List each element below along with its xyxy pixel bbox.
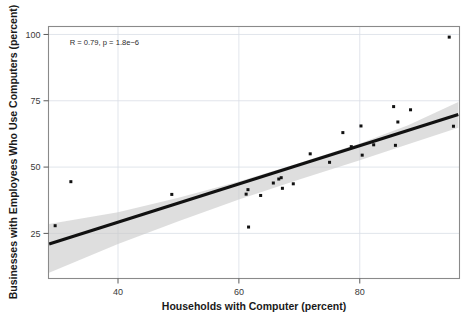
- y-tick-label: 25: [30, 229, 40, 239]
- data-point: [396, 120, 399, 123]
- data-point: [409, 108, 412, 111]
- data-point: [281, 187, 284, 190]
- x-tick-label: 60: [234, 287, 244, 297]
- data-point: [54, 224, 57, 227]
- data-point: [245, 193, 248, 196]
- data-point: [247, 226, 250, 229]
- scatter-plot-figure: 406080 255075100 R = 0.79, p = 1.8e−6 Ho…: [0, 0, 474, 331]
- y-tick-label: 75: [30, 96, 40, 106]
- data-point: [392, 105, 395, 108]
- data-point: [328, 161, 331, 164]
- data-point: [309, 152, 312, 155]
- data-point: [259, 194, 262, 197]
- data-point: [280, 176, 283, 179]
- data-point: [69, 180, 72, 183]
- data-point: [394, 144, 397, 147]
- data-point: [272, 182, 275, 185]
- data-point: [341, 131, 344, 134]
- x-tick-label: 80: [355, 287, 365, 297]
- figure-background: [0, 0, 474, 331]
- correlation-annotation: R = 0.79, p = 1.8e−6: [70, 38, 139, 47]
- data-point: [246, 188, 249, 191]
- data-point: [292, 182, 295, 185]
- data-point: [448, 36, 451, 39]
- data-point: [359, 124, 362, 127]
- y-tick-label: 100: [25, 30, 40, 40]
- data-point: [350, 145, 353, 148]
- x-axis-title: Households with Computer (percent): [162, 300, 346, 312]
- data-point: [361, 154, 364, 157]
- data-point: [452, 125, 455, 128]
- data-point: [372, 143, 375, 146]
- data-point: [170, 193, 173, 196]
- y-tick-label: 50: [30, 162, 40, 172]
- x-tick-label: 40: [113, 287, 123, 297]
- y-axis-title: Businesses with Employees Who Use Comput…: [7, 5, 19, 300]
